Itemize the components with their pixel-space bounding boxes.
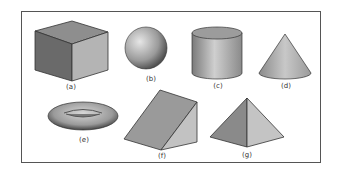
cylinder-shape [192,27,242,79]
label-a: (a) [66,83,76,91]
torus-shape [48,102,118,130]
cube-shape [35,21,108,81]
label-c: (c) [213,82,222,90]
label-g: (g) [242,151,252,159]
label-b: (b) [146,75,156,83]
wedge-shape [124,90,197,150]
label-d: (d) [281,82,291,90]
sphere-shape [125,27,167,69]
cone-shape [259,34,311,79]
label-e: (e) [79,136,89,144]
label-f: (f) [158,152,166,160]
pyramid-shape [210,98,284,147]
